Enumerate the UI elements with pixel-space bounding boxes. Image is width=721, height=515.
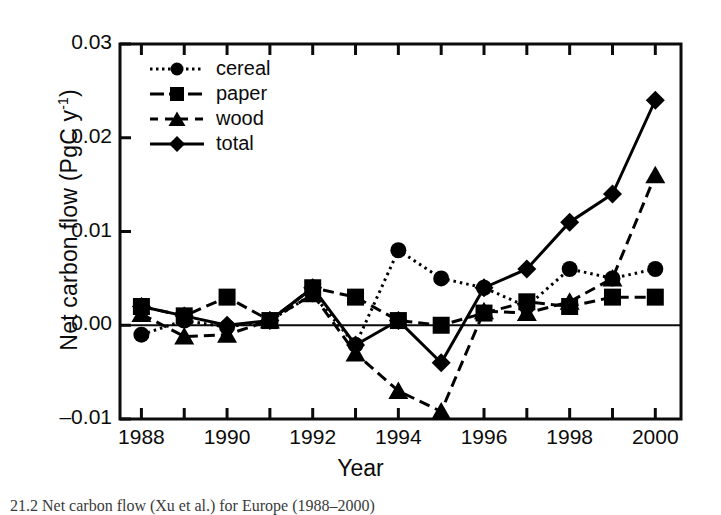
data-point-marker (647, 289, 664, 306)
legend-label-wood: wood (206, 107, 264, 130)
series-line-wood (141, 175, 655, 411)
legend-key-cereal (148, 58, 206, 80)
legend-item-wood: wood (148, 106, 338, 131)
data-point-marker (431, 402, 451, 420)
data-point-marker (647, 261, 663, 277)
data-point-marker (646, 91, 665, 110)
y-axis-tick-label: 0.02 (0, 124, 112, 148)
legend-item-paper: paper (148, 81, 338, 106)
x-axis-tick-label: 1988 (96, 425, 186, 449)
data-point-marker (347, 289, 364, 306)
figure-caption: 21.2 Net carbon flow (Xu et al.) for Eur… (10, 497, 710, 515)
legend-key-wood (148, 108, 206, 130)
data-point-marker (390, 242, 406, 258)
legend-item-total: total (148, 131, 338, 156)
legend-label-total: total (206, 132, 254, 155)
data-point-marker (645, 166, 665, 184)
data-point-marker (218, 316, 237, 335)
data-point-marker (603, 185, 622, 204)
y-axis-tick-label: 0.00 (0, 311, 112, 335)
data-point-marker (133, 327, 149, 343)
data-point-marker (475, 278, 494, 297)
data-point-marker (604, 289, 621, 306)
y-axis-tick-label: 0.01 (0, 218, 112, 242)
x-axis-tick-label: 1994 (353, 425, 443, 449)
data-point-marker (562, 261, 578, 277)
figure-root: Net carbon flow (PgC y-1) Year cereal pa… (0, 0, 721, 515)
data-point-marker (219, 289, 236, 306)
x-axis-tick-label: 1996 (439, 425, 529, 449)
legend-label-cereal: cereal (206, 57, 270, 80)
legend-item-cereal: cereal (148, 56, 338, 81)
series-wood (131, 166, 665, 420)
legend-label-paper: paper (206, 82, 267, 105)
y-axis-tick-label: –0.01 (0, 405, 112, 429)
y-axis-tick-label: 0.03 (0, 30, 112, 54)
x-axis-tick-label: 1998 (525, 425, 615, 449)
data-point-marker (433, 317, 450, 334)
x-axis-tick-label: 2000 (610, 425, 700, 449)
x-axis-tick-label: 1992 (268, 425, 358, 449)
legend-key-total (148, 133, 206, 155)
legend-key-paper (148, 83, 206, 105)
x-axis-tick-label: 1990 (182, 425, 272, 449)
data-point-marker (433, 270, 449, 286)
chart-legend: cereal paper wood total (148, 56, 338, 156)
